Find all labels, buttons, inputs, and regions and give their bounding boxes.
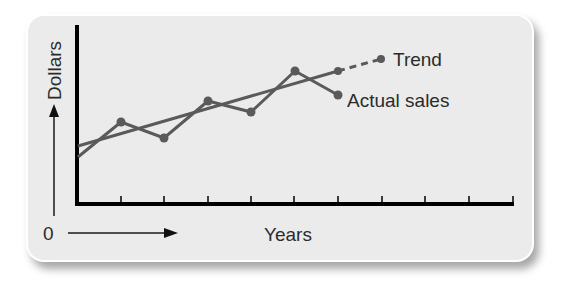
legend-actual-sales: Actual sales [347, 90, 449, 111]
trend-line [78, 71, 338, 146]
arrow-right-icon [164, 228, 178, 238]
x-axis-label: Years [264, 224, 312, 245]
trend-extension [338, 59, 381, 71]
arrow-up-icon [49, 104, 59, 117]
trend-marker [334, 67, 342, 75]
origin-label: 0 [43, 223, 54, 244]
trend-marker [377, 55, 385, 63]
line-chart: Trend Actual sales Dollars 0 Years [0, 0, 575, 284]
actual-sales-line [78, 71, 338, 157]
y-axis-label: Dollars [44, 41, 65, 100]
legend-trend: Trend [393, 49, 442, 70]
